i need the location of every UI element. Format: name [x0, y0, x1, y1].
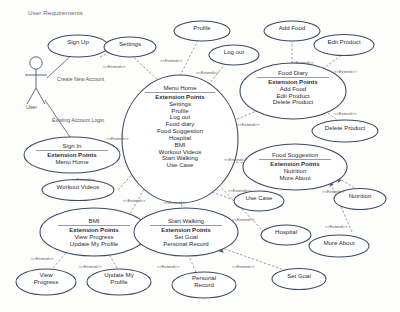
ellipse-menu-home [122, 75, 238, 203]
ellipse-sign-in [24, 137, 120, 173]
ellipse-update-my-profile [87, 269, 151, 295]
ellipse-hospital [261, 225, 311, 245]
ellipse-delete-product [312, 120, 378, 142]
extend-label-editproduct-fooddiary: <<Extend>> [334, 69, 356, 74]
ellipse-food-diary [240, 63, 346, 119]
ellipse-edit-product [314, 35, 374, 56]
ellipse-food-suggestion [243, 144, 347, 190]
ellipse-personal-record [172, 272, 236, 298]
actor-figure [25, 57, 47, 104]
ellipse-sign-up [48, 35, 108, 57]
extend-label-viewprogress-bmi: <<Extend>> [31, 256, 53, 261]
use-case-diagram-canvas: User Requirements User Create New Accoun… [0, 0, 400, 312]
extend-label-bmi-menuhome: <<Extend>> [123, 198, 145, 203]
extend-label-setgoal-startwalking: <<Extend>> [232, 264, 254, 269]
extend-label-startwalking-menuhome: <<Extend>> [164, 200, 186, 205]
extend-label-signin-menuhome: <<Extend>> [106, 136, 128, 141]
extend-label-workoutvideos-menuhome: <<Extend>> [72, 177, 94, 182]
ellipse-settings [104, 37, 156, 57]
actor-label-user: User [26, 104, 37, 110]
ellipse-log-out [209, 45, 259, 65]
association-lines [45, 52, 75, 140]
extend-label-deleteproduct-fooddiary: <<Extend>> [334, 111, 356, 116]
ellipse-add-food [264, 21, 320, 41]
extend-label-fooddiary-menuhome: <<Extend>> [237, 122, 259, 127]
extend-label-nutrition-foodsuggestion: <<Extend>> [322, 189, 344, 194]
page-title: User Requirements [28, 9, 83, 16]
ellipse-profile [174, 21, 230, 41]
diagram-vector-layer [0, 0, 400, 312]
extend-label-usecase-menuhome: <<Extend>> [228, 188, 250, 193]
ellipse-start-walking [134, 208, 238, 256]
extend-label-settings-menuhome: <<Extend>> [103, 64, 125, 69]
ellipse-bmi [40, 208, 148, 256]
association-label-existing-account-login: Existing Account Login [52, 117, 104, 123]
extend-label-addfood-fooddiary: <<Extend>> [291, 60, 313, 65]
extend-label-personalrecord-startwalking: <<Extend>> [157, 264, 179, 269]
extend-label-foodsuggestion-menuhome: <<Extend>> [224, 157, 246, 162]
use-case-ellipses [16, 21, 386, 298]
association-label-create-new-account: Create New Account [57, 76, 104, 82]
ellipse-more-about [309, 235, 369, 257]
extend-label-profile-menuhome: <<Extend>> [160, 58, 182, 63]
extend-label-updateprofile-bmi: <<Extend>> [79, 264, 101, 269]
ellipse-view-progress [16, 269, 76, 295]
ellipse-use-case [234, 191, 284, 211]
extend-label-hospital-menuhome: <<Extend>> [232, 217, 254, 222]
extend-label-logout-menuhome: <<Extend>> [196, 70, 218, 75]
ellipse-set-goal [272, 269, 326, 290]
extend-label-moreabout-foodsuggestion: <<Extend>> [325, 224, 347, 229]
ellipse-workout-videos [42, 180, 114, 201]
